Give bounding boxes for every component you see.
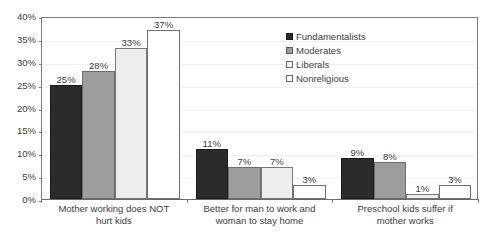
x-axis-end-tick <box>41 199 42 203</box>
legend-label: Nonreligious <box>296 73 349 84</box>
legend-label: Fundamentalists <box>296 31 366 42</box>
bar-chart: 0%5%10%15%20%25%30%35%40% 25%28%33%37%11… <box>0 0 491 245</box>
bar-value-label: 3% <box>439 175 472 185</box>
legend: FundamentalistsModeratesLiberalsNonrelig… <box>286 30 406 86</box>
x-group-tick <box>187 199 188 203</box>
x-axis-category-labels: Mother working does NOT hurt kidsBetter … <box>41 203 478 245</box>
x-category-label: Preschool kids suffer if mother works <box>342 203 468 227</box>
legend-item: Nonreligious <box>286 72 406 85</box>
bar-value-label: 1% <box>406 184 439 194</box>
bar <box>196 149 229 199</box>
legend-item: Liberals <box>286 58 406 71</box>
bar-value-label: 25% <box>50 75 83 85</box>
bar <box>228 167 261 199</box>
y-tick-label: 40% <box>0 12 36 22</box>
x-group-tick <box>332 199 333 203</box>
y-tick-label: 5% <box>0 172 36 182</box>
bar <box>147 30 180 199</box>
bar-value-label: 9% <box>341 148 374 158</box>
bar-value-label: 3% <box>293 175 326 185</box>
legend-swatch-icon <box>286 47 293 54</box>
bar-value-label: 28% <box>82 61 115 71</box>
x-axis-end-tick <box>478 199 479 203</box>
bar-value-label: 37% <box>147 20 180 30</box>
bar-value-label: 7% <box>228 157 261 167</box>
bar <box>439 185 472 199</box>
bar <box>261 167 294 199</box>
y-tick-label: 20% <box>0 104 36 114</box>
legend-swatch-icon <box>286 61 293 68</box>
x-category-label: Mother working does NOT hurt kids <box>51 203 177 227</box>
legend-swatch-icon <box>286 33 293 40</box>
y-tick-label: 35% <box>0 35 36 45</box>
bar <box>115 48 148 199</box>
y-axis: 0%5%10%15%20%25%30%35%40% <box>0 0 36 245</box>
legend-item: Moderates <box>286 44 406 57</box>
bar-value-label: 8% <box>374 152 407 162</box>
bar <box>374 162 407 199</box>
y-tick-label: 0% <box>0 195 36 205</box>
x-category-label: Better for man to work and woman to stay… <box>197 203 323 227</box>
bar-value-label: 7% <box>261 157 294 167</box>
legend-label: Liberals <box>296 59 329 70</box>
legend-swatch-icon <box>286 75 293 82</box>
bars-layer: 25%28%33%37%11%7%7%3%9%8%1%3% <box>42 18 477 199</box>
y-tick-label: 10% <box>0 149 36 159</box>
bar-value-label: 11% <box>196 139 229 149</box>
bar <box>293 185 326 199</box>
y-tick-label: 15% <box>0 126 36 136</box>
y-tick-label: 30% <box>0 58 36 68</box>
bar-value-label: 33% <box>115 38 148 48</box>
bar <box>406 194 439 199</box>
bar <box>50 85 83 199</box>
legend-item: Fundamentalists <box>286 30 406 43</box>
bar <box>82 71 115 199</box>
y-tick-label: 25% <box>0 81 36 91</box>
legend-label: Moderates <box>296 45 341 56</box>
plot-area: 25%28%33%37%11%7%7%3%9%8%1%3% <box>41 17 478 200</box>
bar <box>341 158 374 199</box>
